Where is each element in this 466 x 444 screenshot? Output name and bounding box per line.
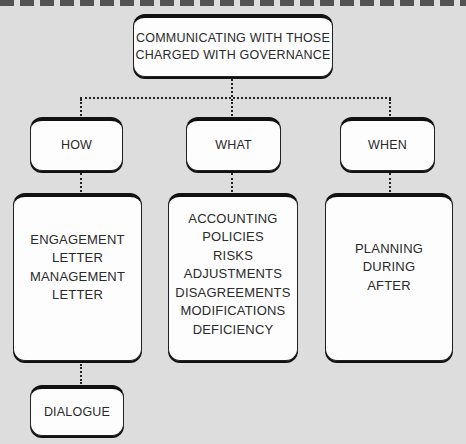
when-detail-1: PLANNING bbox=[355, 240, 423, 259]
detail-node-what: ACCOUNTING POLICIES RISKS ADJUSTMENTS DI… bbox=[168, 193, 298, 361]
cropped-text-strip bbox=[0, 0, 466, 6]
how-detail-2: LETTER bbox=[52, 249, 103, 268]
category-label-what: WHAT bbox=[215, 137, 252, 154]
connector-horizontal bbox=[80, 97, 391, 99]
detail-node-when: PLANNING DURING AFTER bbox=[325, 193, 453, 361]
detail-node-how: ENGAGEMENT LETTER MANAGEMENT LETTER bbox=[13, 193, 142, 361]
when-detail-3: AFTER bbox=[367, 277, 411, 296]
what-detail-4: ADJUSTMENTS bbox=[184, 265, 282, 284]
how-detail-4: LETTER bbox=[52, 286, 103, 305]
connector-root-down bbox=[231, 79, 233, 97]
when-detail-2: DURING bbox=[363, 258, 415, 277]
how-detail-3: MANAGEMENT bbox=[30, 268, 125, 287]
root-node-line-1: COMMUNICATING WITH THOSE bbox=[136, 30, 330, 47]
what-detail-3: RISKS bbox=[213, 247, 253, 266]
connector-what-details bbox=[231, 173, 233, 192]
category-node-how: HOW bbox=[30, 117, 123, 171]
category-label-how: HOW bbox=[61, 137, 92, 154]
what-detail-7: DEFICIENCY bbox=[193, 321, 274, 340]
connector-how-details bbox=[80, 173, 82, 192]
dialogue-label: DIALOGUE bbox=[44, 404, 110, 421]
what-detail-5: DISAGREEMENTS bbox=[175, 284, 290, 303]
sub-node-dialogue: DIALOGUE bbox=[30, 385, 124, 436]
what-detail-1: ACCOUNTING bbox=[188, 210, 277, 229]
root-node-line-2: CHARGED WITH GOVERNANCE bbox=[136, 47, 331, 64]
connector-to-how bbox=[80, 99, 82, 116]
category-label-when: WHEN bbox=[368, 137, 407, 154]
category-node-what: WHAT bbox=[186, 117, 281, 171]
what-detail-2: POLICIES bbox=[202, 228, 264, 247]
connector-how-dialogue bbox=[80, 364, 82, 384]
root-node: COMMUNICATING WITH THOSE CHARGED WITH GO… bbox=[133, 14, 333, 77]
connector-to-when bbox=[389, 99, 391, 116]
how-detail-1: ENGAGEMENT bbox=[30, 231, 124, 250]
category-node-when: WHEN bbox=[340, 117, 435, 171]
connector-to-what bbox=[231, 99, 233, 116]
connector-when-details bbox=[389, 173, 391, 192]
what-detail-6: MODIFICATIONS bbox=[181, 302, 286, 321]
